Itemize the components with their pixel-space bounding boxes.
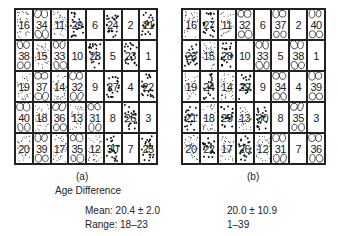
- grid-cell: 38: [289, 40, 307, 71]
- grid-cell: 33: [254, 40, 272, 71]
- grid-cell: 17: [218, 133, 236, 164]
- cell-number: 3: [313, 112, 319, 124]
- grid-cell: 16: [15, 9, 33, 40]
- cell-number: 12: [89, 143, 100, 155]
- grid-cell: 7: [289, 133, 307, 164]
- cell-number: 21: [143, 19, 154, 31]
- cell-number: 18: [203, 112, 214, 124]
- grid-cell: 26: [122, 102, 140, 133]
- cell-number: 32: [239, 19, 250, 31]
- grid-cell: 32: [236, 9, 254, 40]
- grid-cell: 25: [218, 102, 236, 133]
- cell-number: 11: [221, 19, 231, 31]
- cell-number: 8: [278, 112, 284, 124]
- grid-cell: 22: [200, 133, 218, 164]
- grid-cell: 4: [289, 71, 307, 102]
- grid-cell: 5: [104, 40, 122, 71]
- cell-number: 24: [203, 81, 214, 93]
- cell-number: 31: [275, 143, 286, 155]
- cell-number: 6: [92, 19, 98, 31]
- cell-number: 38: [293, 50, 304, 62]
- cell-number: 25: [221, 112, 232, 124]
- grid-cell: 13: [236, 102, 254, 133]
- grid-cell: 31: [271, 133, 289, 164]
- grid-cell: 15: [33, 40, 51, 71]
- grid-cell: 2: [122, 9, 140, 40]
- grid-cell: 22: [139, 71, 157, 102]
- cell-number: 19: [18, 81, 29, 93]
- grid-cell: 6: [86, 9, 104, 40]
- grid-cell: 29: [236, 71, 254, 102]
- grid-cell: 40: [307, 9, 325, 40]
- cell-number: 26: [125, 112, 136, 124]
- cell-number: 9: [92, 81, 98, 93]
- grid-cell: 18: [200, 102, 218, 133]
- cell-number: 10: [72, 50, 83, 62]
- grid-cell: 17: [51, 133, 69, 164]
- grid-cell: 4: [122, 71, 140, 102]
- grid-cell: 20: [15, 133, 33, 164]
- grid-cell: 19: [182, 71, 200, 102]
- grid-cell: 24: [104, 9, 122, 40]
- cell-number: 32: [72, 81, 83, 93]
- grid-cell: 26: [236, 133, 254, 164]
- cell-number: 27: [107, 81, 118, 93]
- grid-cell: 6: [254, 9, 272, 40]
- grid-cell: 20: [182, 133, 200, 164]
- grid-cell: 24: [200, 71, 218, 102]
- grid-cell: 38: [15, 40, 33, 71]
- grid-cell: 34: [33, 9, 51, 40]
- grid-cell: 23: [182, 40, 200, 71]
- grid-cell: 14: [51, 71, 69, 102]
- grid-cell: 37: [33, 71, 51, 102]
- grid-cell: 3: [307, 102, 325, 133]
- grid-cell: 12: [86, 133, 104, 164]
- cell-number: 34: [36, 19, 47, 31]
- cell-number: 33: [257, 50, 268, 62]
- grid-cell: 40: [15, 102, 33, 133]
- grid-cell: 31: [86, 102, 104, 133]
- grid-cell: 36: [51, 102, 69, 133]
- range-a: Range: 18–23: [85, 219, 148, 230]
- grid-cell: 10: [68, 40, 86, 71]
- grid-cell: 8: [271, 102, 289, 133]
- cell-number: 36: [310, 143, 321, 155]
- cell-number: 5: [110, 50, 116, 62]
- cell-number: 34: [275, 81, 286, 93]
- cell-number: 8: [110, 112, 116, 124]
- grid-cell: 30: [254, 102, 272, 133]
- caption-a: (a): [76, 171, 88, 182]
- grid-cell: 18: [33, 102, 51, 133]
- grid-cell: 2: [289, 9, 307, 40]
- cell-number: 11: [54, 19, 64, 31]
- grid-cell: 35: [68, 133, 86, 164]
- cell-number: 4: [295, 81, 301, 93]
- cell-number: 19: [185, 81, 196, 93]
- grid-cell: 28: [218, 40, 236, 71]
- grid-cell: 8: [104, 102, 122, 133]
- grid-cell: 14: [218, 71, 236, 102]
- cell-number: 23: [185, 50, 196, 62]
- cell-number: 39: [310, 81, 321, 93]
- cell-number: 7: [295, 143, 301, 155]
- cell-number: 6: [260, 19, 266, 31]
- cell-number: 21: [185, 112, 196, 124]
- grid-cell: 39: [33, 133, 51, 164]
- cell-number: 36: [54, 112, 65, 124]
- cell-number: 2: [128, 19, 134, 31]
- cell-number: 12: [257, 143, 268, 155]
- cell-number: 5: [278, 50, 284, 62]
- cell-number: 14: [221, 81, 232, 93]
- grid-cell: 32: [68, 71, 86, 102]
- cell-number: 17: [221, 143, 232, 155]
- grid-panel-b: 1627113263724023152810335381192414299344…: [181, 8, 326, 165]
- cell-number: 29: [72, 19, 83, 31]
- grid-cell: 39: [307, 71, 325, 102]
- grid-cell: 9: [254, 71, 272, 102]
- cell-number: 17: [54, 143, 65, 155]
- grid-cell: 1: [139, 40, 157, 71]
- cell-number: 15: [203, 50, 214, 62]
- cell-number: 9: [260, 81, 266, 93]
- grid-cell: 36: [307, 133, 325, 164]
- grid-cell: 7: [122, 133, 140, 164]
